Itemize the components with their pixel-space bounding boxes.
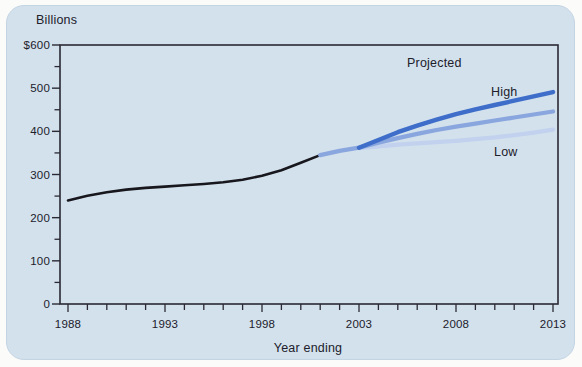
x-tick-label: 2003 [346,318,372,330]
y-tick-label: 0 [43,298,50,310]
x-tick-label: 2013 [540,318,566,330]
projected-annotation: Projected [407,56,462,70]
y-tick-label: 300 [30,169,50,181]
y-tick-label: 200 [30,212,50,224]
high-line-label: High [491,85,518,99]
y-tick-label: 500 [30,82,50,94]
x-tick-label: 1998 [249,318,275,330]
y-axis-unit-label: Billions [36,13,77,27]
plot-layer: 0100200300400500$60019881993199820032008… [24,39,567,330]
x-tick-label: 1988 [55,318,81,330]
x-axis-label: Year ending [274,341,342,355]
low-line-label: Low [494,145,518,159]
y-tick-label: 400 [30,125,50,137]
series-line-actual [68,155,320,200]
x-tick-label: 1993 [152,318,178,330]
y-tick-label: 100 [30,255,50,267]
line-chart: 0100200300400500$60019881993199820032008… [0,0,582,367]
y-tick-label: $600 [24,39,50,51]
x-tick-label: 2008 [443,318,469,330]
plot-frame [60,45,558,304]
